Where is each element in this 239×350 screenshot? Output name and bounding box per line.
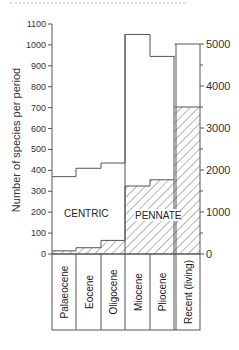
right-tick-label: 0 [206, 248, 212, 260]
right-tick-label: 1000 [206, 206, 230, 218]
bars [52, 34, 200, 254]
pennate-bar [101, 240, 125, 254]
period-label: Miocene [133, 273, 144, 311]
right-tick-label: 5000 [206, 38, 230, 50]
left-tick-label: 1000 [26, 40, 46, 50]
period-label: Eocene [84, 275, 95, 309]
centric-label: CENTRIC [64, 208, 108, 219]
right-axis: 010002000300040005000 [200, 38, 230, 260]
left-tick-label: 1100 [27, 19, 46, 29]
right-tick-label: 3000 [206, 122, 230, 134]
left-tick-label: 800 [31, 82, 46, 92]
pennate-label: PENNATE [135, 210, 182, 221]
period-label: Pliocene [157, 272, 168, 311]
right-tick-label: 4000 [206, 80, 230, 92]
pennate-bar [76, 248, 101, 254]
period-table: PalaeoceneEoceneOligoceneMiocenePliocene… [52, 254, 200, 330]
left-tick-label: 0 [41, 249, 46, 259]
left-tick-label: 100 [31, 228, 46, 238]
period-label: Recent (living) [183, 260, 194, 324]
period-label: Oligocene [108, 269, 119, 314]
pennate-bar [175, 107, 201, 254]
y-axis-label: Number of species per period [10, 68, 22, 212]
right-tick-label: 2000 [206, 164, 230, 176]
left-tick-label: 900 [31, 61, 46, 71]
left-axis: 010020030040050060070080090010001100 [26, 19, 52, 259]
left-tick-label: 300 [31, 186, 46, 196]
left-tick-label: 600 [31, 124, 46, 134]
left-tick-label: 700 [31, 103, 46, 113]
chart: 010020030040050060070080090010001100 010… [0, 0, 239, 350]
period-label: Palaeocene [59, 265, 70, 318]
left-tick-label: 400 [31, 165, 46, 175]
left-tick-label: 500 [31, 144, 46, 154]
left-tick-label: 200 [31, 207, 46, 217]
